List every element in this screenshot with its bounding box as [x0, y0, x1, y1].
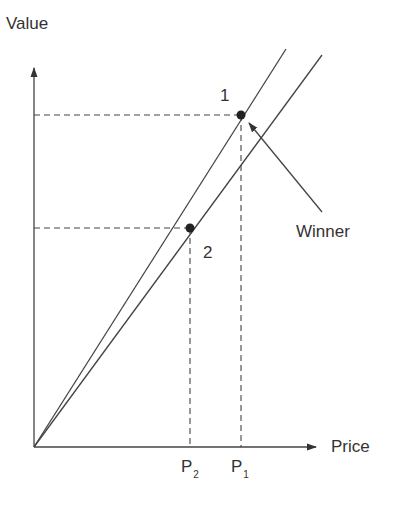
diagram-canvas — [0, 0, 394, 508]
winner-arrow — [249, 123, 322, 212]
point-2-label: 2 — [203, 243, 212, 263]
point-2 — [186, 224, 195, 233]
tick-p2-main: P — [181, 457, 192, 476]
tick-p1: P1 — [231, 457, 249, 477]
shallow-line — [34, 55, 322, 447]
point-1 — [237, 111, 246, 120]
tick-p1-sub: 1 — [243, 469, 249, 480]
point-1-label: 1 — [220, 86, 229, 106]
tick-p2-sub: 2 — [193, 469, 199, 480]
y-axis-label: Value — [6, 14, 48, 34]
steep-line — [34, 49, 286, 447]
tick-p2: P2 — [181, 457, 199, 477]
winner-label: Winner — [296, 222, 350, 242]
x-axis-label: Price — [331, 437, 370, 457]
tick-p1-main: P — [231, 457, 242, 476]
